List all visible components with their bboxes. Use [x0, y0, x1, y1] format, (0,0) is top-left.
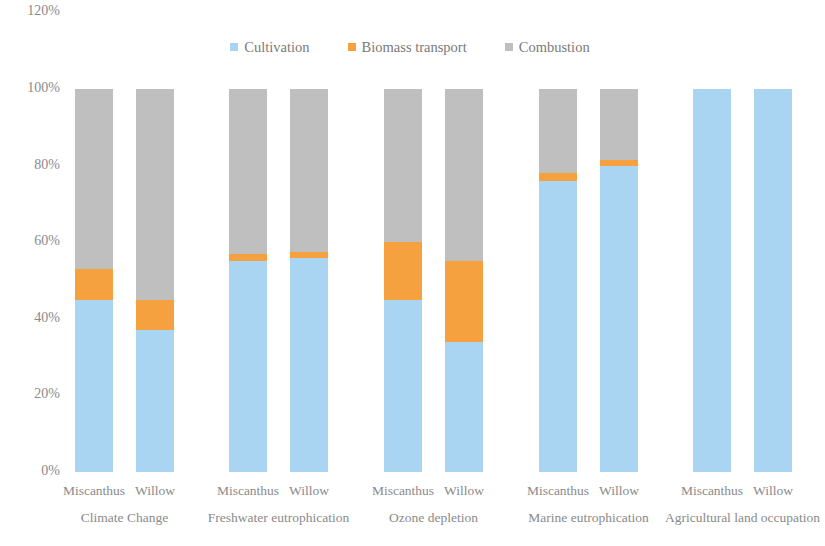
x-axis-subcategory-label: Willow: [713, 483, 825, 499]
x-axis-category-label: Ozone depletion: [359, 510, 509, 527]
bar-segment-combustion[interactable]: [229, 89, 267, 254]
y-axis-tick-label: 120%: [8, 4, 60, 18]
bar-segment-biomass-transport[interactable]: [75, 269, 113, 300]
bar-8[interactable]: [600, 89, 638, 472]
bar-6[interactable]: [445, 89, 483, 472]
bar-segment-cultivation[interactable]: [539, 181, 577, 472]
bar-segment-biomass-transport[interactable]: [136, 300, 174, 331]
legend-square-icon: [348, 43, 356, 51]
bar-segment-biomass-transport[interactable]: [229, 254, 267, 262]
legend-label: Cultivation: [244, 40, 309, 55]
bar-10[interactable]: [754, 89, 792, 472]
bar-segment-biomass-transport[interactable]: [384, 242, 422, 299]
bar-segment-combustion[interactable]: [539, 89, 577, 173]
bar-segment-cultivation[interactable]: [75, 300, 113, 472]
bar-segment-biomass-transport[interactable]: [445, 261, 483, 341]
bar-segment-cultivation[interactable]: [600, 166, 638, 472]
bar-segment-cultivation[interactable]: [229, 261, 267, 472]
bar-segment-cultivation[interactable]: [136, 330, 174, 472]
bar-segment-combustion[interactable]: [75, 89, 113, 269]
bar-4[interactable]: [290, 89, 328, 472]
y-axis-tick-label: 60%: [8, 234, 60, 248]
bar-7[interactable]: [539, 89, 577, 472]
y-axis-tick-label: 20%: [8, 387, 60, 401]
bar-5[interactable]: [384, 89, 422, 472]
x-axis-category-label: Climate Change: [50, 510, 200, 527]
bar-9[interactable]: [693, 89, 731, 472]
y-axis-tick-label: 100%: [8, 81, 60, 95]
bar-segment-cultivation[interactable]: [290, 258, 328, 472]
bar-segment-cultivation[interactable]: [445, 342, 483, 472]
y-axis-tick-label: 40%: [8, 311, 60, 325]
chart-legend: Cultivation Biomass transport Combustion: [0, 40, 820, 55]
bar-3[interactable]: [229, 89, 267, 472]
y-axis-tick-label: 0%: [8, 464, 60, 478]
bar-segment-biomass-transport[interactable]: [539, 173, 577, 181]
bar-1[interactable]: [75, 89, 113, 472]
plot-area: [60, 89, 820, 472]
legend-square-icon: [505, 43, 513, 51]
bar-segment-combustion[interactable]: [136, 89, 174, 300]
x-axis-category-label: Freshwater eutrophication: [204, 510, 354, 527]
x-axis-category-label: Agricultural land occupation: [663, 510, 823, 527]
legend-label: Biomass transport: [362, 40, 467, 55]
bar-segment-cultivation[interactable]: [384, 300, 422, 472]
legend-item-cultivation[interactable]: Cultivation: [230, 40, 309, 55]
y-axis-tick-label: 80%: [8, 158, 60, 172]
bar-segment-combustion[interactable]: [445, 89, 483, 261]
bar-segment-cultivation[interactable]: [693, 89, 731, 472]
bar-segment-cultivation[interactable]: [754, 89, 792, 472]
bar-segment-combustion[interactable]: [290, 89, 328, 252]
bar-segment-combustion[interactable]: [600, 89, 638, 160]
legend-square-icon: [230, 43, 238, 51]
legend-label: Combustion: [519, 40, 590, 55]
x-axis-category-label: Marine eutrophication: [501, 510, 676, 527]
bar-2[interactable]: [136, 89, 174, 472]
legend-item-biomass-transport[interactable]: Biomass transport: [348, 40, 467, 55]
bar-segment-combustion[interactable]: [384, 89, 422, 242]
legend-item-combustion[interactable]: Combustion: [505, 40, 590, 55]
